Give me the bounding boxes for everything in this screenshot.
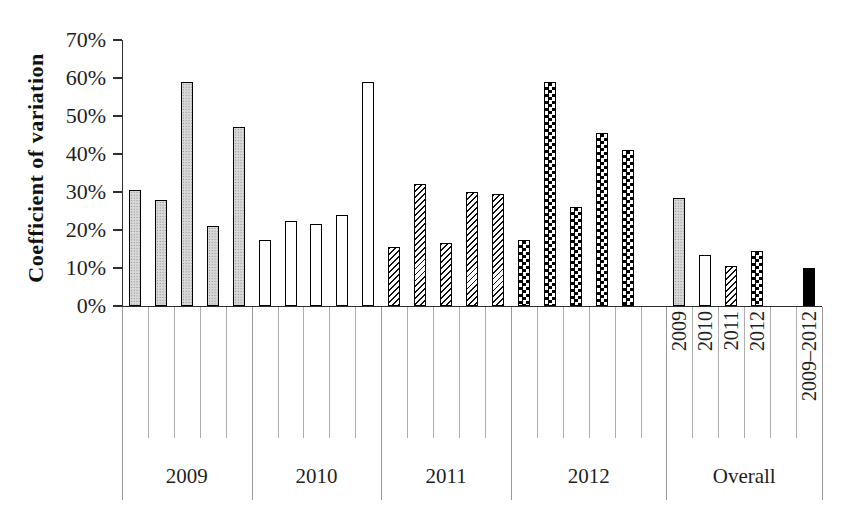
category-tick [615, 307, 616, 438]
y-axis-tick-label: 10% [34, 257, 106, 279]
category-tick [537, 307, 538, 438]
group-separator [122, 307, 123, 500]
bar-2010-1 [259, 240, 271, 307]
category-tick [589, 307, 590, 438]
group-label-2012: 2012 [568, 466, 610, 487]
group-label-Overall: Overall [713, 466, 776, 487]
bar-2012-5 [622, 150, 634, 306]
bar-2009-1 [129, 190, 141, 306]
bar-Overall-6 [803, 268, 815, 306]
bar-2010-4 [336, 215, 348, 306]
bar-2010-3 [310, 224, 322, 306]
category-tick [433, 307, 434, 438]
y-axis-tick [113, 305, 122, 306]
y-axis-tick [113, 39, 122, 40]
bar-Overall-4 [751, 251, 763, 306]
y-axis-tick-label: 30% [34, 181, 106, 203]
category-tick [407, 307, 408, 438]
bar-2012-4 [596, 133, 608, 306]
y-axis-tick-label: 70% [34, 29, 106, 51]
group-label-2010: 2010 [295, 466, 337, 487]
group-separator [252, 307, 253, 500]
group-separator [381, 307, 382, 500]
bar-category-label: 2009–2012 [799, 311, 819, 401]
category-tick [303, 307, 304, 438]
y-axis-tick [113, 153, 122, 154]
bar-2012-2 [544, 82, 556, 306]
category-tick [355, 307, 356, 438]
bar-2009-4 [207, 226, 219, 306]
bar-category-label: 2011 [721, 311, 741, 350]
bar-2009-2 [155, 200, 167, 306]
y-axis-tick [113, 229, 122, 230]
bar-2011-4 [466, 192, 478, 306]
bar-2012-1 [518, 240, 530, 307]
category-tick [226, 307, 227, 438]
y-axis-tick-label: 50% [34, 105, 106, 127]
bar-category-label: 2012 [747, 311, 767, 351]
bar-Overall-3 [725, 266, 737, 306]
category-tick [641, 307, 642, 438]
y-axis-tick [113, 115, 122, 116]
x-axis-line [122, 306, 822, 307]
group-separator [511, 307, 512, 500]
y-axis-tick [113, 267, 122, 268]
chart-canvas: Coefficient of variation 0%10%20%30%40%5… [0, 0, 845, 524]
category-tick [563, 307, 564, 438]
bar-2011-3 [440, 243, 452, 306]
bar-Overall-1 [673, 198, 685, 306]
y-axis-tick-label: 20% [34, 219, 106, 241]
category-tick [459, 307, 460, 438]
bar-2011-1 [388, 247, 400, 306]
bar-category-label: 2009 [669, 311, 689, 351]
category-tick [278, 307, 279, 438]
bar-2011-5 [492, 194, 504, 306]
bar-2010-2 [285, 221, 297, 307]
bar-Overall-2 [699, 255, 711, 306]
category-tick [485, 307, 486, 438]
y-axis-line [122, 40, 123, 306]
y-axis-tick-label: 60% [34, 67, 106, 89]
category-tick [796, 307, 797, 438]
group-label-2011: 2011 [425, 466, 466, 487]
bar-2010-5 [362, 82, 374, 306]
y-axis-tick-label: 0% [34, 295, 106, 317]
category-tick [770, 307, 771, 438]
bar-2012-3 [570, 207, 582, 306]
bar-category-label: 2010 [695, 311, 715, 351]
y-axis-tick [113, 191, 122, 192]
bar-2009-3 [181, 82, 193, 306]
group-label-2009: 2009 [166, 466, 208, 487]
y-axis-tick-label: 40% [34, 143, 106, 165]
category-tick [148, 307, 149, 438]
category-tick [329, 307, 330, 438]
bar-2009-5 [233, 127, 245, 306]
bar-2011-2 [414, 184, 426, 306]
group-separator [822, 307, 823, 500]
y-axis-tick [113, 77, 122, 78]
category-tick [200, 307, 201, 438]
category-tick [174, 307, 175, 438]
